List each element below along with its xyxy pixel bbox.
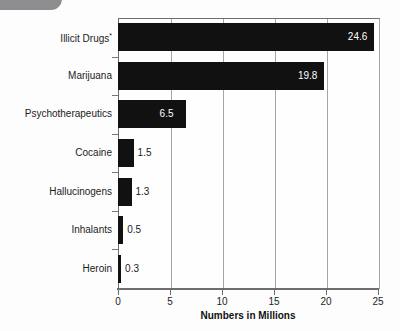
bar-value-label: 1.5 [138, 148, 152, 158]
x-axis-line [117, 288, 379, 290]
bar-value-label: 0.5 [127, 225, 141, 235]
y-axis-tick [112, 172, 118, 173]
x-axis-title: Numbers in Millions [118, 311, 378, 321]
gridline-25 [379, 19, 380, 289]
y-axis-tick [112, 57, 118, 58]
x-axis-tick-label: 20 [311, 297, 341, 307]
bar-value-label: 1.3 [136, 187, 150, 197]
category-label: Marijuana [68, 71, 112, 81]
category-label: Heroin [83, 264, 112, 274]
bar-value-label: 0.3 [125, 264, 139, 274]
x-axis-tick-20 [326, 289, 327, 295]
bar-psychotherapeutics [118, 100, 186, 128]
plot-area [118, 18, 380, 289]
x-axis-tick-label: 25 [363, 297, 393, 307]
gridline-5 [171, 19, 172, 289]
y-axis-tick [112, 95, 118, 96]
gridline-10 [223, 19, 224, 289]
x-axis-tick-label: 5 [155, 297, 185, 307]
category-label: Inhalants [71, 225, 112, 235]
scan-artifact-tab [0, 0, 62, 10]
x-axis-tick-15 [274, 289, 275, 295]
bar-value-label: 24.6 [348, 32, 367, 42]
y-axis-tick [112, 211, 118, 212]
y-axis-tick [112, 249, 118, 250]
gridline-20 [327, 19, 328, 289]
bar-value-label: 19.8 [298, 71, 317, 81]
x-axis-tick-0 [118, 289, 119, 295]
bar-chart: 24.619.86.51.51.30.50.3 Illicit Drugs*Ma… [0, 0, 400, 331]
bar-inhalants [118, 216, 123, 244]
bar-heroin [118, 255, 121, 283]
bar-cocaine [118, 139, 134, 167]
bar-value-label: 6.5 [160, 109, 174, 119]
x-axis-tick-label: 15 [259, 297, 289, 307]
y-axis-tick [112, 134, 118, 135]
x-axis-tick-25 [378, 289, 379, 295]
x-axis-tick-label: 10 [207, 297, 237, 307]
category-label: Cocaine [75, 148, 112, 158]
category-label: Psychotherapeutics [25, 109, 112, 119]
bar-illicitdrugs [118, 23, 374, 51]
category-label: Illicit Drugs* [60, 32, 112, 44]
category-label: Hallucinogens [49, 187, 112, 197]
x-axis-tick-5 [170, 289, 171, 295]
bar-hallucinogens [118, 178, 132, 206]
gridline-15 [275, 19, 276, 289]
x-axis-tick-label: 0 [103, 297, 133, 307]
bar-marijuana [118, 62, 324, 90]
x-axis-tick-10 [222, 289, 223, 295]
